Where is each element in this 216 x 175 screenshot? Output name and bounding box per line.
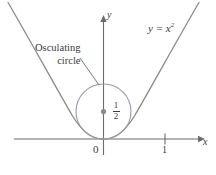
fraction-numerator: 1: [110, 101, 122, 110]
origin-label: 0: [93, 144, 99, 155]
curve-equation-exponent: 2: [171, 21, 175, 29]
x-axis-tick-label-1: 1: [162, 145, 167, 155]
y-axis: [100, 15, 106, 155]
plot-canvas: [0, 0, 216, 175]
y-axis-arrow-icon: [100, 15, 106, 22]
osculating-annotation-line-1: Osculating: [35, 42, 81, 55]
osculating-annotation-line-2: circle: [35, 55, 81, 68]
annotation-leader-line: [80, 58, 99, 85]
curve-equation-label: y = x2: [148, 22, 174, 34]
fraction-denominator: 2: [110, 112, 122, 121]
circle-center-point: [101, 109, 106, 114]
y-axis-label: y: [107, 10, 111, 20]
curve-equation-base: y = x: [148, 22, 171, 34]
circle-center-value-label: 1 2: [110, 101, 122, 122]
osculating-circle-figure: y x 0 1 y = x2 Osculating circle 1 2: [0, 0, 216, 175]
osculating-circle-annotation: Osculating circle: [35, 42, 81, 68]
x-axis-label: x: [203, 137, 207, 147]
